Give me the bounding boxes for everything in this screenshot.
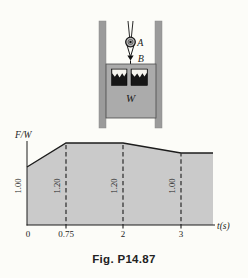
x-axis-title: t(s) <box>217 221 230 232</box>
value-label-1.00-at-0: 1.00 <box>13 179 23 194</box>
figure-caption: Fig. P14.87 <box>0 253 248 265</box>
hook-label-B: B <box>138 53 144 64</box>
figure-page: A B W F/W t(s) 0 0.75 2 3 <box>0 0 248 278</box>
x-tick-0: 0 <box>26 229 31 239</box>
left-rail <box>99 21 106 128</box>
weight-label-W: W <box>126 92 136 104</box>
force-ratio-graph: F/W t(s) 0 0.75 2 3 1.00 1.20 1.20 1.00 <box>13 130 230 239</box>
value-label-1.20-at-0.75: 1.20 <box>52 179 62 194</box>
pulley-hub <box>129 41 131 43</box>
cable-left <box>128 21 130 38</box>
value-label-1.20-at-2: 1.20 <box>109 179 119 194</box>
x-tick-0.75: 0.75 <box>58 229 74 239</box>
pulley-label-A: A <box>136 37 144 48</box>
apparatus-diagram: A B W <box>99 21 162 128</box>
value-label-1.00-at-3: 1.00 <box>167 179 177 194</box>
cable-right <box>131 21 133 38</box>
x-tick-2: 2 <box>121 229 126 239</box>
y-axis-title: F/W <box>14 130 32 140</box>
hook-icon <box>127 56 133 61</box>
physics-figure: A B W F/W t(s) 0 0.75 2 3 <box>0 0 248 252</box>
x-tick-3: 3 <box>179 229 184 239</box>
